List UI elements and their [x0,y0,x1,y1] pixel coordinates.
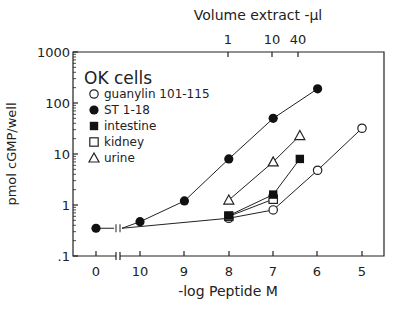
legend-item-label: ST 1-18 [104,103,150,117]
data-point-open-circle [313,166,321,174]
y-tick-label: 10 [53,147,70,162]
cgmp-chart: 1000100101.10109876511040Volume extract … [0,0,394,310]
data-point-open-circle [358,124,366,132]
y-tick-label: 1 [62,198,70,213]
x-tick-label: 5 [358,264,366,279]
legend-item-label: kidney [104,135,144,149]
x-tick-label: 0 [92,264,100,279]
data-point-filled-circle [91,224,100,233]
y-tick-label: .1 [58,249,70,264]
data-point-open-circle [269,206,277,214]
legend-title: OK cells [84,68,152,88]
legend: OK cellsguanylin 101-115ST 1-18intestine… [84,68,210,165]
x-tick-label: 6 [313,264,321,279]
x-axis-title: -log Peptide M [178,283,278,299]
plot-axes: 1000100101.10109876511040Volume extract … [4,7,384,299]
x2-tick-label: 1 [224,32,232,47]
data-point-filled-circle [269,114,278,123]
data-point-filled-circle [89,105,98,114]
data-point-filled-circle [313,84,322,93]
data-point-open-square [90,138,98,146]
data-point-open-circle [90,90,98,98]
legend-item-label: urine [104,151,135,165]
x2-tick-label: 10 [264,32,281,47]
data-point-filled-circle [224,154,233,163]
top-axis-title: Volume extract -µl [194,7,322,23]
y-tick-label: 100 [45,96,70,111]
y-tick-label: 1000 [37,45,70,60]
x-tick-label: 7 [269,264,277,279]
legend-item-label: guanylin 101-115 [104,87,210,101]
y-axis-title: pmol cGMP/well [4,102,19,205]
x-tick-label: 8 [225,264,233,279]
x2-tick-label: 40 [290,32,307,47]
x-tick-label: 9 [180,264,188,279]
x-tick-label: 10 [132,264,149,279]
data-point-filled-square [90,122,98,130]
data-point-open-triangle [89,153,99,162]
data-point-filled-square [269,190,277,198]
data-point-filled-square [296,155,304,163]
legend-item-label: intestine [104,119,156,133]
series-intestine [225,155,304,220]
data-point-filled-circle [135,217,144,226]
data-point-filled-circle [180,196,189,205]
data-point-open-triangle [295,131,305,140]
data-point-filled-square [225,211,233,219]
